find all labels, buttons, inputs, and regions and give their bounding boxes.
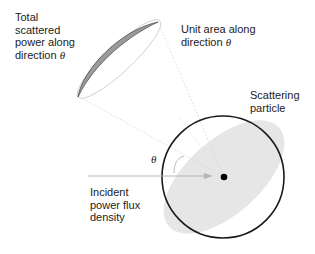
label-unit-area: Unit area along direction θ: [181, 23, 256, 48]
theta-label: θ: [151, 153, 156, 165]
label-incident-flux: Incident power flux density: [90, 186, 140, 224]
unit-area-ellipse: [69, 11, 169, 106]
label-scattering-particle: Scattering particle: [250, 89, 300, 114]
cone-line-lower: [80, 97, 224, 177]
particle-dot: [221, 174, 228, 181]
label-total-scattered: Total scattered power along direction θ: [15, 11, 75, 61]
